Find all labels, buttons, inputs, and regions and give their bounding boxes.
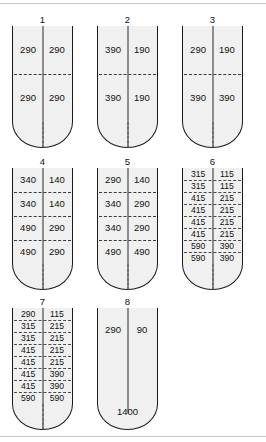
value-cell-left: 290	[14, 26, 43, 74]
value-row: 315 115	[184, 180, 242, 192]
value-row: 390 190	[99, 26, 157, 74]
value-row: 290 290	[14, 26, 72, 74]
vessel-label-1: 1	[0, 14, 85, 25]
vessel-centerline-tip-1	[42, 122, 43, 148]
value-grid-1: 290 290 290 290	[14, 26, 72, 122]
value-row: 340 140	[14, 192, 72, 216]
value-row: 415 215	[184, 204, 242, 216]
value-grid-8: 290 90	[99, 308, 157, 352]
value-cell-left: 590	[184, 240, 213, 252]
value-row: 290 115	[14, 308, 72, 320]
value-cell-left: 315	[184, 168, 213, 180]
vessel-label-2: 2	[85, 14, 170, 25]
value-row: 390 390	[184, 74, 242, 122]
vessel-body-6: 315 115 315 115 415 215 415	[182, 168, 243, 290]
vessel-centerline-tip-3	[212, 122, 213, 148]
value-cell-right: 190	[128, 74, 157, 122]
value-cell-right: 390	[43, 380, 72, 392]
value-row: 415 215	[14, 344, 72, 356]
value-cell-left: 340	[99, 216, 128, 240]
bottom-rule-divider	[0, 436, 266, 437]
value-cell-right: 290	[128, 192, 157, 216]
value-row: 315 215	[14, 332, 72, 344]
value-cell-right: 290	[43, 216, 72, 240]
value-cell-right: 190	[213, 26, 242, 74]
vessel-body-3: 290 190 390 390	[182, 26, 243, 148]
value-grid-7: 290 115 315 215 315 215 415	[14, 308, 72, 404]
value-cell-right: 190	[128, 26, 157, 74]
vessel-body-4: 340 140 340 140 490 290 490	[12, 168, 73, 290]
value-cell-left: 315	[184, 180, 213, 192]
value-row: 415 215	[184, 228, 242, 240]
value-cell-right: 490	[128, 240, 157, 264]
value-cell-left: 590	[184, 252, 213, 264]
value-cell-left: 340	[14, 192, 43, 216]
value-cell-left: 415	[14, 368, 43, 380]
value-row: 415 390	[14, 380, 72, 392]
value-cell-left: 415	[14, 344, 43, 356]
vessel-label-6: 6	[170, 156, 255, 167]
value-row: 490 490	[99, 240, 157, 264]
value-cell-right: 140	[43, 168, 72, 192]
value-grid-3: 290 190 390 390	[184, 26, 242, 122]
vessel-centerline-tip-7	[42, 404, 43, 430]
value-cell-left: 415	[14, 356, 43, 368]
vessel-bottom-total-8: 1400	[99, 407, 157, 417]
vessel-label-5: 5	[85, 156, 170, 167]
value-cell-left: 290	[184, 26, 213, 74]
value-cell-left: 290	[99, 168, 128, 192]
value-row: 590 390	[184, 240, 242, 252]
vessel-label-7: 7	[0, 296, 85, 307]
vessel-body-1: 290 290 290 290	[12, 26, 73, 148]
value-cell-right: 390	[43, 368, 72, 380]
value-grid-5: 290 140 340 290 340 290 490	[99, 168, 157, 264]
value-cell-right: 90	[128, 308, 157, 352]
vessel-body-8: 290 90 1400	[97, 308, 158, 430]
value-row: 290 190	[184, 26, 242, 74]
value-cell-right: 140	[43, 192, 72, 216]
value-cell-left: 590	[14, 392, 43, 404]
value-cell-right: 215	[43, 320, 72, 332]
value-cell-right: 215	[213, 192, 242, 204]
value-cell-left: 415	[184, 204, 213, 216]
value-cell-right: 140	[128, 168, 157, 192]
vessel-label-8: 8	[85, 296, 170, 307]
value-cell-right: 215	[213, 204, 242, 216]
vessel-centerline-tip-5	[127, 264, 128, 290]
value-cell-left: 415	[184, 228, 213, 240]
value-cell-right: 115	[213, 168, 242, 180]
figure-page: 1 290 290 290 290	[0, 0, 266, 442]
value-row: 415 215	[184, 192, 242, 204]
vessel-centerline-tip-6	[212, 264, 213, 290]
value-cell-left: 415	[184, 216, 213, 228]
value-cell-right: 215	[213, 216, 242, 228]
value-row: 390 190	[99, 74, 157, 122]
vessel-body-2: 390 190 390 190	[97, 26, 158, 148]
value-cell-right: 390	[213, 240, 242, 252]
vessel-centerline-tip-4	[42, 264, 43, 290]
value-cell-left: 290	[14, 74, 43, 122]
value-cell-right: 390	[213, 74, 242, 122]
value-row: 415 390	[14, 368, 72, 380]
value-cell-right: 390	[213, 252, 242, 264]
value-grid-4: 340 140 340 140 490 290 490	[14, 168, 72, 264]
value-cell-left: 290	[14, 308, 43, 320]
value-cell-right: 590	[43, 392, 72, 404]
value-cell-left: 390	[99, 26, 128, 74]
value-cell-right: 290	[43, 74, 72, 122]
value-cell-right: 115	[213, 180, 242, 192]
vessel-body-5: 290 140 340 290 340 290 490	[97, 168, 158, 290]
value-cell-left: 390	[99, 74, 128, 122]
value-row: 340 290	[99, 216, 157, 240]
value-cell-left: 390	[184, 74, 213, 122]
value-row: 340 140	[14, 168, 72, 192]
vessel-label-3: 3	[170, 14, 255, 25]
value-row: 415 215	[184, 216, 242, 228]
vessel-body-7: 290 115 315 215 315 215 415	[12, 308, 73, 430]
value-cell-right: 290	[43, 26, 72, 74]
value-cell-right: 215	[43, 332, 72, 344]
value-row: 290 90	[99, 308, 157, 352]
value-row: 590 590	[14, 392, 72, 404]
value-row: 315 115	[184, 168, 242, 180]
vessel-centerline-tip-2	[127, 122, 128, 148]
